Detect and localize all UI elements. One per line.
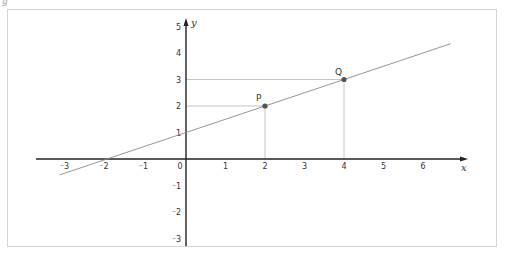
x-tick-label: 1 <box>223 162 228 171</box>
x-tick-label: 0 <box>177 162 182 171</box>
x-tick-label: 4 <box>341 162 346 171</box>
graph-line <box>60 44 451 175</box>
x-tick-label: 6 <box>420 162 425 171</box>
point-p <box>262 103 267 108</box>
y-axis-label: y <box>190 17 197 28</box>
point-label-q: Q <box>335 67 342 77</box>
y-tick-label: 4 <box>176 49 181 58</box>
point-q <box>341 77 346 82</box>
x-axis-label: x <box>461 162 467 173</box>
x-tick-label: 3 <box>302 162 307 171</box>
y-tick-label: ⁻3 <box>172 235 181 244</box>
x-tick-label: 5 <box>381 162 386 171</box>
y-tick-label: ⁻1 <box>172 182 181 191</box>
point-label-p: P <box>256 93 262 103</box>
x-tick-label: ⁻2 <box>99 162 108 171</box>
y-tick-label: 3 <box>176 76 181 85</box>
x-tick-label: ⁻1 <box>139 162 148 171</box>
y-tick-label: 2 <box>176 102 181 111</box>
x-tick-label: ⁻3 <box>60 162 69 171</box>
y-tick-label: ⁻2 <box>172 208 181 217</box>
y-axis-arrow-icon <box>184 18 189 26</box>
y-tick-label: 5 <box>176 23 181 32</box>
x-axis-arrow-icon <box>460 157 468 162</box>
x-tick-label: 2 <box>262 162 267 171</box>
y-tick-label: 1 <box>176 129 181 138</box>
coordinate-plane: xy⁻3⁻2⁻10123456⁻3⁻2⁻112345PQ <box>0 0 508 257</box>
